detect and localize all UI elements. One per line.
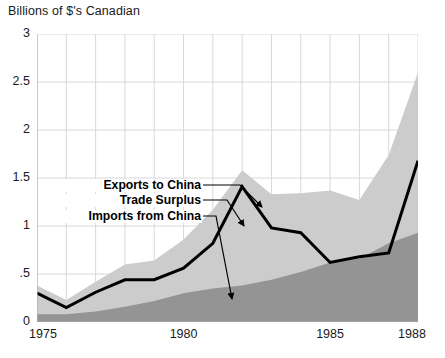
y-tick-label: .5 (0, 266, 30, 280)
y-tick-label: 1.5 (0, 170, 30, 184)
y-tick-label: 2 (0, 122, 30, 136)
annotation-trade-surplus: Trade Surplus (64, 194, 202, 207)
y-tick-label: 2.5 (0, 74, 30, 88)
y-tick-label: 3 (0, 26, 30, 40)
plot-area (37, 34, 418, 322)
annotation-exports-to-china: Exports to China (64, 179, 202, 192)
x-tick-label: 1988 (392, 327, 432, 341)
y-axis-title: Billions of $'s Canadian (8, 4, 140, 18)
x-tick-label: 1985 (310, 327, 350, 341)
annotation-imports-from-china: Imports from China (54, 210, 202, 223)
x-tick-label: 1980 (164, 327, 204, 341)
y-tick-label: 1 (0, 218, 30, 232)
chart-figure: Billions of $'s Canadian 0.511.522.53 19… (0, 0, 445, 358)
x-tick-label: 1975 (23, 327, 63, 341)
y-tick-label: 0 (0, 314, 30, 328)
